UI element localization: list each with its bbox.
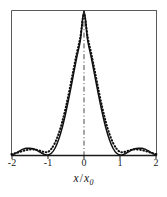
x-tick-label-zero: 0 [74,157,94,168]
figure-container: -2 -1 0 1 2 x/x0 [0,0,167,197]
x-axis-label-subscript: 0 [89,178,93,187]
x-axis-label: x/x0 [0,172,167,187]
x-tick-label-neg1: -1 [38,157,58,168]
x-axis-label-numerator: x [73,172,78,184]
x-tick-label-pos1: 1 [110,157,130,168]
x-tick-label-neg2: -2 [2,157,22,168]
x-tick-label-pos2: 2 [146,157,166,168]
